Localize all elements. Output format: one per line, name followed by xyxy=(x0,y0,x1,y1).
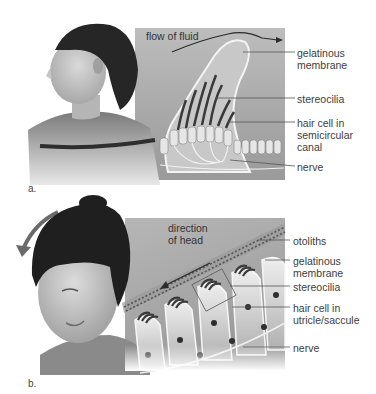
panel-b-utricle-saccule: direction of head otoliths gelatinous me… xyxy=(0,195,376,394)
label-hair-cell-semicircular-canal: hair cell in semicircular canal xyxy=(297,117,353,153)
person-side-view-icon xyxy=(28,24,160,185)
label-gelatinous-membrane: gelatinous membrane xyxy=(293,255,343,279)
cupula-structure-icon xyxy=(160,40,284,172)
label-nerve: nerve xyxy=(297,161,323,173)
label-stereocilia: stereocilia xyxy=(297,93,344,105)
panel-letter-b: b. xyxy=(28,378,36,389)
panel-letter-a: a. xyxy=(28,183,36,194)
label-otoliths: otoliths xyxy=(293,235,326,247)
label-nerve: nerve xyxy=(293,342,319,354)
label-stereocilia: stereocilia xyxy=(293,281,340,293)
label-hair-cell-utricle-saccule: hair cell in utricle/saccule xyxy=(293,302,360,326)
label-gelatinous-membrane: gelatinous membrane xyxy=(297,47,347,71)
direction-of-head-annotation: direction of head xyxy=(168,222,208,246)
flow-of-fluid-annotation: flow of fluid xyxy=(146,30,199,42)
panel-b-bottom-fade xyxy=(125,345,285,371)
panel-a-semicircular-canal: flow of fluid gelatinous membrane stereo… xyxy=(0,0,376,195)
